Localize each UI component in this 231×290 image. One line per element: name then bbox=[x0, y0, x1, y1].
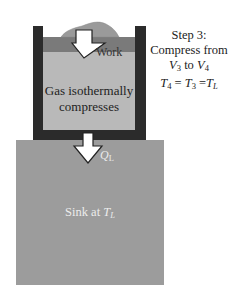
sink-temp-subscript: L bbox=[110, 210, 115, 220]
heat-arrow-icon bbox=[74, 133, 102, 163]
volume-subscript-2: 4 bbox=[205, 63, 209, 73]
gas-label-line1: Gas isothermally bbox=[43, 83, 135, 99]
work-label: Work bbox=[96, 45, 122, 60]
heat-out-label: QL bbox=[100, 148, 114, 163]
volume-symbol-1: V bbox=[169, 58, 177, 72]
step-action: Compress from bbox=[147, 43, 231, 58]
step-volumes: V3 to V4 bbox=[147, 58, 231, 76]
volume-symbol-2: V bbox=[197, 58, 205, 72]
sink-label: Sink at TL bbox=[16, 205, 164, 220]
heat-symbol: Q bbox=[100, 148, 109, 162]
volume-connector: to bbox=[181, 58, 197, 72]
gas-label: Gas isothermally compresses bbox=[43, 83, 135, 115]
gas-label-line2: compresses bbox=[43, 99, 135, 115]
equals-1: = bbox=[171, 76, 184, 90]
step-description: Step 3: Compress from V3 to V4 T4 = T3 =… bbox=[147, 28, 231, 94]
sink-label-prefix: Sink at bbox=[65, 205, 103, 219]
temp-subscript-3: L bbox=[213, 81, 218, 91]
equals-2: = bbox=[196, 76, 206, 90]
heat-subscript: L bbox=[109, 153, 114, 163]
temp-symbol-2: T bbox=[185, 76, 192, 90]
step-temperatures: T4 = T3 =TL bbox=[147, 76, 231, 94]
step-title: Step 3: bbox=[147, 28, 231, 43]
